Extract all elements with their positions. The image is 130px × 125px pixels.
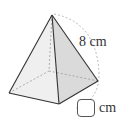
- pyramid-right-face: [52, 15, 98, 104]
- edge-length-label: 8 cm: [79, 35, 107, 49]
- answer-unit-label: cm: [99, 101, 116, 115]
- answer-box[interactable]: [77, 99, 95, 117]
